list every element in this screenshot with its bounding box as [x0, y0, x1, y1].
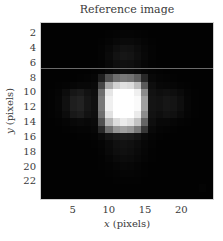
- pixel-cell: [70, 111, 77, 118]
- pixel-cell: [41, 89, 48, 96]
- pixel-cell: [191, 162, 198, 169]
- pixel-cell: [105, 148, 112, 155]
- pixel-cell: [127, 30, 134, 37]
- pixel-cell: [148, 38, 155, 45]
- pixel-cell: [84, 89, 91, 96]
- pixel-cell: [134, 184, 141, 191]
- pixel-cell: [77, 38, 84, 45]
- pixel-cell: [62, 126, 69, 133]
- pixel-cell: [156, 38, 163, 45]
- pixel-cell: [199, 23, 206, 30]
- pixel-cell: [148, 177, 155, 184]
- pixel-cell: [84, 155, 91, 162]
- pixel-cell: [105, 192, 112, 199]
- pixel-cell: [48, 52, 55, 59]
- pixel-cell: [170, 96, 177, 103]
- y-tick-label: 12: [16, 102, 36, 112]
- pixel-cell: [199, 52, 206, 59]
- pixel-cell: [127, 74, 134, 81]
- pixel-cell: [48, 96, 55, 103]
- pixel-cell: [62, 155, 69, 162]
- pixel-cell: [105, 140, 112, 147]
- pixel-cell: [98, 38, 105, 45]
- pixel-cell: [163, 111, 170, 118]
- pixel-cell: [170, 89, 177, 96]
- pixel-cell: [163, 162, 170, 169]
- pixel-cell: [41, 74, 48, 81]
- pixel-cell: [55, 118, 62, 125]
- pixel-cell: [163, 30, 170, 37]
- pixel-cell: [206, 104, 213, 111]
- pixel-cell: [91, 60, 98, 67]
- pixel-cell: [91, 133, 98, 140]
- pixel-cell: [148, 52, 155, 59]
- pixel-cell: [148, 118, 155, 125]
- pixel-cell: [141, 170, 148, 177]
- pixel-cell: [184, 104, 191, 111]
- pixel-cell: [120, 45, 127, 52]
- pixel-cell: [170, 23, 177, 30]
- pixel-cell: [113, 96, 120, 103]
- pixel-cell: [62, 30, 69, 37]
- pixel-cell: [170, 45, 177, 52]
- pixel-cell: [206, 111, 213, 118]
- pixel-cell: [41, 60, 48, 67]
- pixel-cell: [170, 140, 177, 147]
- pixel-cell: [199, 74, 206, 81]
- pixel-cell: [191, 96, 198, 103]
- pixel-cell: [177, 148, 184, 155]
- pixel-cell: [127, 184, 134, 191]
- pixel-cell: [41, 104, 48, 111]
- pixel-cell: [48, 133, 55, 140]
- pixel-cell: [113, 74, 120, 81]
- pixel-cell: [84, 170, 91, 177]
- pixel-cell: [105, 162, 112, 169]
- pixel-cell: [156, 96, 163, 103]
- y-axis-variable: y: [4, 128, 15, 134]
- pixel-cell: [199, 45, 206, 52]
- pixel-cell: [120, 177, 127, 184]
- pixel-cell: [156, 60, 163, 67]
- pixel-cell: [77, 74, 84, 81]
- pixel-cell: [91, 38, 98, 45]
- pixel-cell: [41, 45, 48, 52]
- pixel-cell: [134, 192, 141, 199]
- pixel-cell: [62, 192, 69, 199]
- pixel-cell: [163, 45, 170, 52]
- pixel-cell: [170, 118, 177, 125]
- pixel-cell: [191, 30, 198, 37]
- pixel-cell: [141, 38, 148, 45]
- pixel-cell: [41, 82, 48, 89]
- pixel-cell: [55, 96, 62, 103]
- pixel-cell: [141, 30, 148, 37]
- pixel-cell: [141, 96, 148, 103]
- pixel-cell: [62, 52, 69, 59]
- pixel-cell: [77, 45, 84, 52]
- pixel-cell: [127, 52, 134, 59]
- pixel-cell: [98, 23, 105, 30]
- pixel-cell: [163, 126, 170, 133]
- pixel-cell: [41, 184, 48, 191]
- pixel-cell: [62, 148, 69, 155]
- y-axis-label: y (pixels): [4, 88, 15, 134]
- pixel-cell: [84, 60, 91, 67]
- pixel-cell: [84, 52, 91, 59]
- pixel-cell: [184, 148, 191, 155]
- pixel-cell: [70, 148, 77, 155]
- pixel-cell: [113, 140, 120, 147]
- pixel-cell: [170, 52, 177, 59]
- pixel-cell: [62, 104, 69, 111]
- pixel-cell: [134, 177, 141, 184]
- pixel-cell: [77, 126, 84, 133]
- pixel-cell: [55, 184, 62, 191]
- y-tick-label: 8: [16, 73, 36, 83]
- pixel-cell: [134, 118, 141, 125]
- pixel-cell: [206, 82, 213, 89]
- pixel-cell: [134, 60, 141, 67]
- pixel-cell: [77, 170, 84, 177]
- pixel-cell: [70, 45, 77, 52]
- pixel-cell: [41, 140, 48, 147]
- pixel-cell: [170, 82, 177, 89]
- pixel-cell: [91, 30, 98, 37]
- pixel-cell: [148, 155, 155, 162]
